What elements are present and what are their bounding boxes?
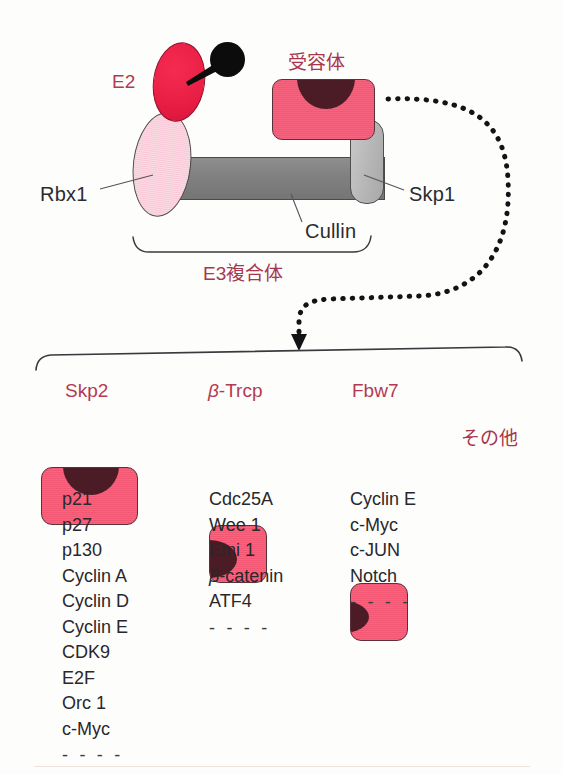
beta-trcp-substrate-list: Cdc25A Wee 1 Emi 1 β-catenin ATF4 - - - … — [209, 487, 283, 639]
receptor-label: 受容体 — [288, 47, 345, 74]
list-item: c-Myc — [62, 717, 129, 743]
list-item: p21 — [62, 487, 129, 513]
receptor-notch-icon — [297, 79, 355, 109]
skp2-label: Skp2 — [65, 380, 108, 402]
list-item: c-Myc — [350, 513, 416, 539]
list-item: CDK9 — [62, 640, 129, 666]
figure-canvas: E2 受容体 Rbx1 Cullin Skp1 E3複合体 Skp2 β-Trc… — [0, 0, 563, 774]
list-item: Orc 1 — [62, 691, 129, 717]
list-item: Cdc25A — [209, 487, 283, 513]
list-item: Cyclin E — [350, 487, 416, 513]
list-ellipsis: - - - - — [62, 745, 129, 766]
list-ellipsis: - - - - — [350, 592, 416, 613]
list-ellipsis: - - - - — [209, 618, 283, 639]
ubiquitin-ball-icon — [210, 42, 245, 77]
arrow-head-icon — [291, 334, 307, 351]
list-item: p27 — [62, 513, 129, 539]
list-item: β-catenin — [209, 564, 283, 590]
list-item: Emi 1 — [209, 538, 283, 564]
receptor-shape — [272, 79, 375, 140]
e2-label: E2 — [112, 71, 135, 93]
caption-cutoff-rule — [34, 766, 530, 767]
e2-enzyme-shape — [148, 39, 211, 125]
list-item: Notch — [350, 564, 416, 590]
list-item: E2F — [62, 666, 129, 692]
beta-trcp-label-rest: -Trcp — [219, 380, 263, 401]
skp2-substrate-list: p21 p27 p130 Cyclin A Cyclin D Cyclin E … — [62, 487, 129, 766]
list-item: Wee 1 — [209, 513, 283, 539]
list-item: Cyclin A — [62, 564, 129, 590]
list-item: c-JUN — [350, 538, 416, 564]
cullin-label: Cullin — [305, 220, 356, 243]
fbw7-label: Fbw7 — [352, 380, 398, 402]
list-item: Cyclin E — [62, 615, 129, 641]
list-item: p130 — [62, 538, 129, 564]
beta-glyph: β — [208, 380, 219, 401]
list-item: ATF4 — [209, 589, 283, 615]
beta-trcp-label: β-Trcp — [208, 380, 262, 402]
rbx1-label: Rbx1 — [40, 183, 88, 206]
e3-complex-bracket-label: E3複合体 — [203, 258, 283, 285]
list-item: Cyclin D — [62, 589, 129, 615]
others-label: その他 — [461, 423, 518, 450]
fbw7-substrate-list: Cyclin E c-Myc c-JUN Notch - - - - — [350, 487, 416, 613]
skp1-label: Skp1 — [409, 183, 455, 206]
rbx1-shape — [127, 109, 197, 220]
substrates-bracket — [36, 347, 522, 370]
